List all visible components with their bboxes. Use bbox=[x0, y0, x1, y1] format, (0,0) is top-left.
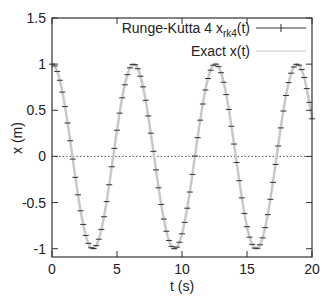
legend-rk4-main: Runge-Kutta 4 x bbox=[122, 20, 223, 36]
legend-label-exact: Exact x(t) bbox=[191, 43, 250, 59]
y-axis-title: x (m) bbox=[9, 122, 25, 154]
x-tick-label: 20 bbox=[304, 261, 320, 277]
y-tick-label: -0.5 bbox=[22, 195, 46, 211]
y-tick-label: 0.5 bbox=[27, 102, 47, 118]
x-tick-label: 5 bbox=[113, 261, 121, 277]
x-tick-label: 10 bbox=[174, 261, 190, 277]
x-tick-label: 0 bbox=[48, 261, 56, 277]
y-tick-label: 1 bbox=[38, 56, 46, 72]
x-tick-label: 15 bbox=[239, 261, 255, 277]
chart: 05101520 -1-0.500.511.5 t (s) x (m) Rung… bbox=[0, 0, 330, 303]
legend-rk4-sub: rk4 bbox=[223, 28, 237, 39]
legend-rk4-tail: (t) bbox=[237, 20, 250, 36]
y-tick-label: 1.5 bbox=[27, 10, 47, 26]
y-tick-label: 0 bbox=[38, 148, 46, 164]
y-tick-label: -1 bbox=[34, 241, 47, 257]
x-axis-title: t (s) bbox=[170, 278, 194, 294]
